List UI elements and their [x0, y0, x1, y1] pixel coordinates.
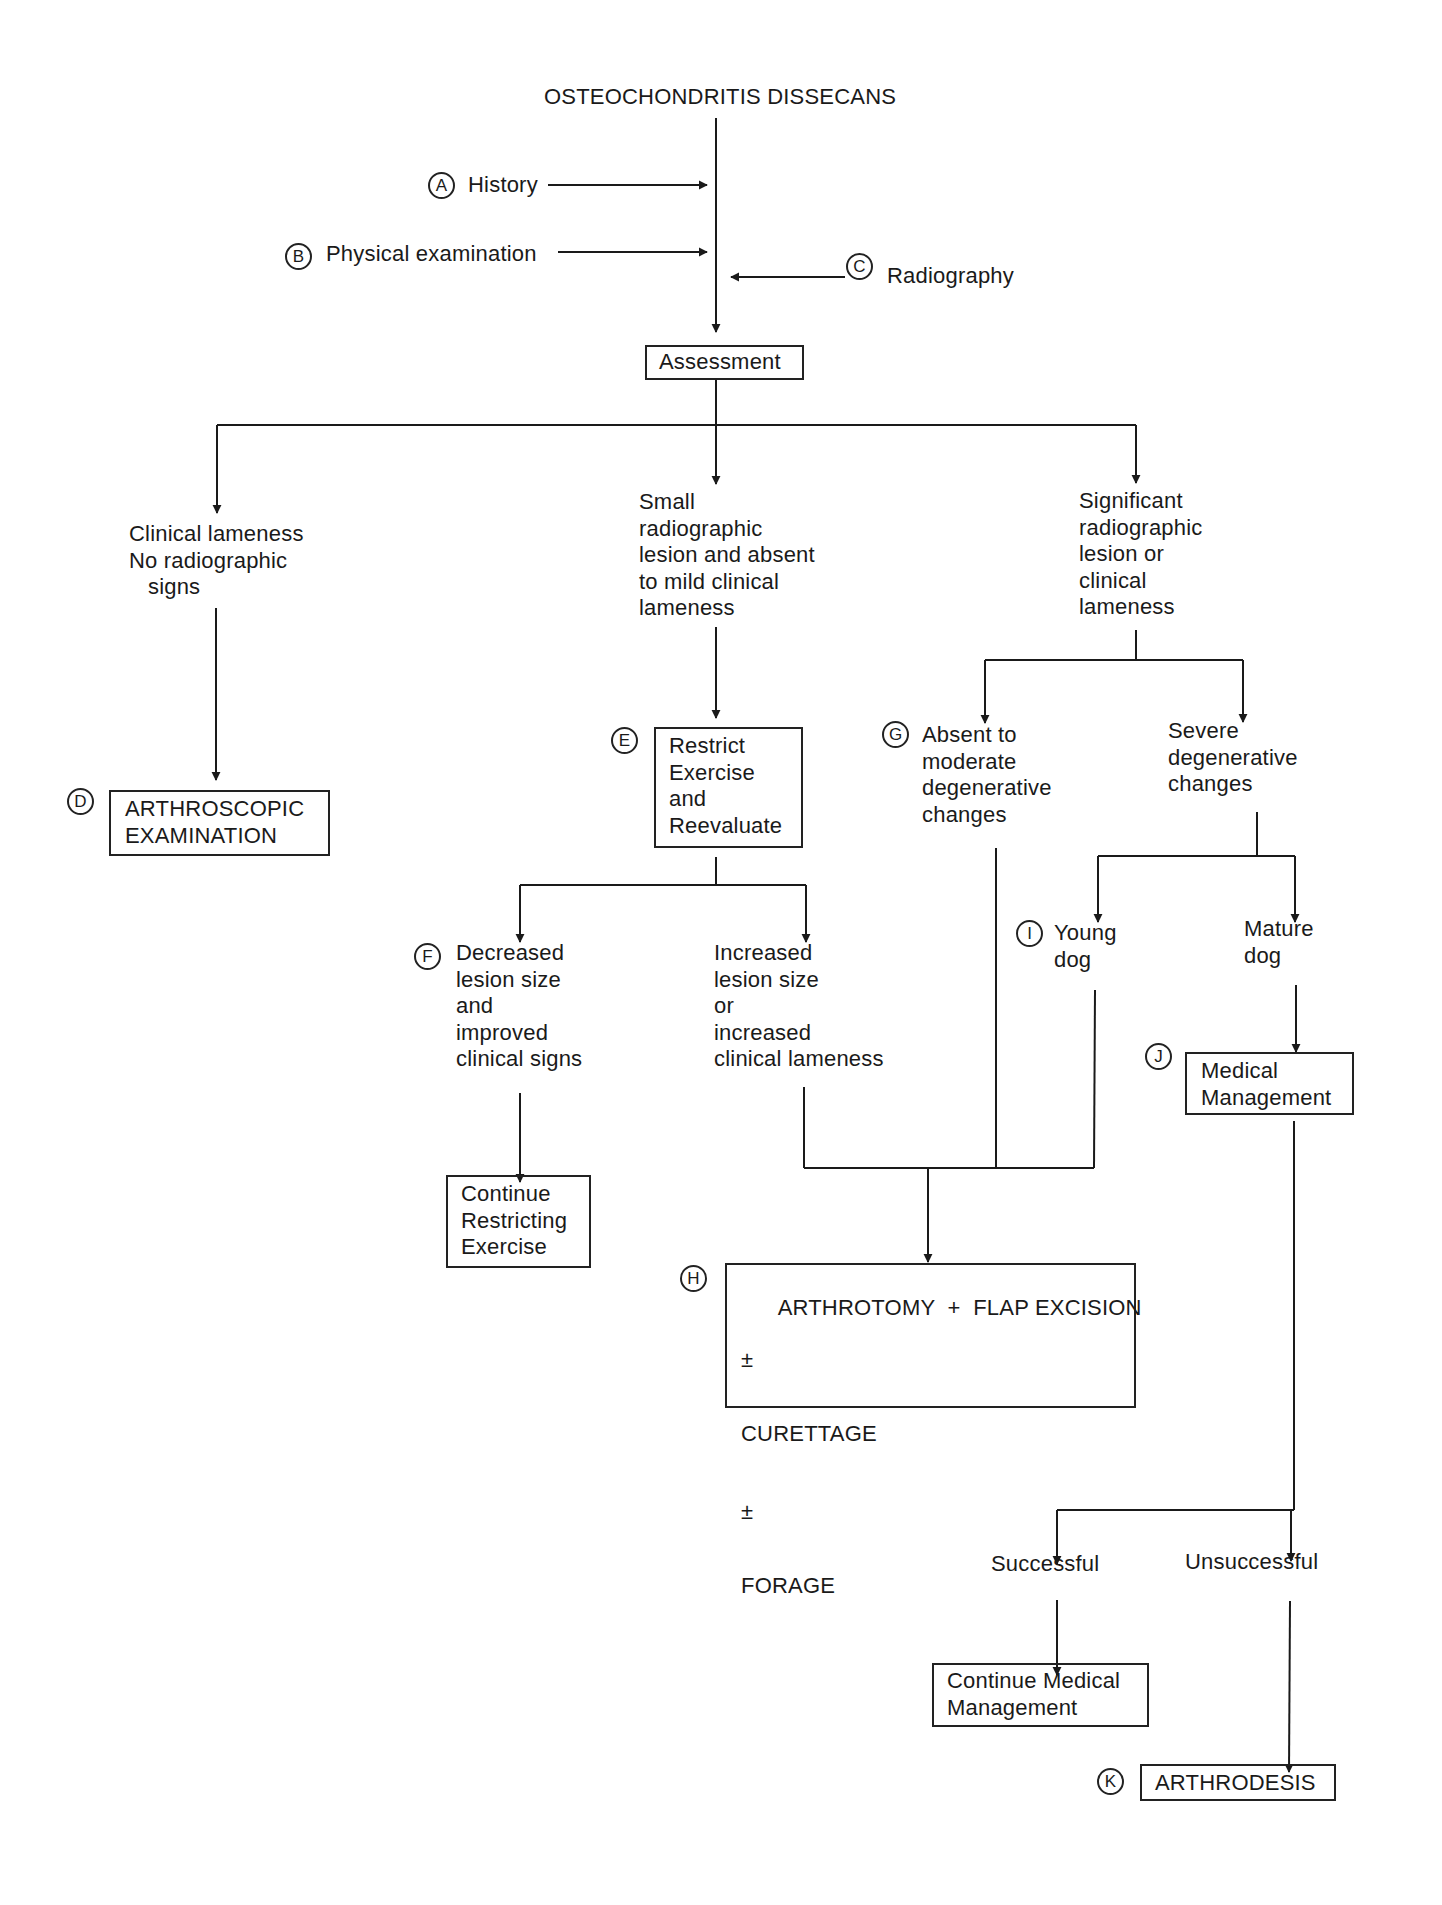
mature-dog: Mature dog — [1244, 916, 1314, 969]
input-physical-examination: Physical examination — [326, 241, 537, 268]
curettage-line: CURETTAGE — [741, 1421, 1142, 1447]
arthrodesis-box: ARTHRODESIS — [1140, 1764, 1336, 1801]
marker-f: F — [414, 943, 441, 970]
input-history: History — [468, 172, 538, 199]
assessment-label: Assessment — [659, 349, 781, 376]
arthrotomy-line: ARTHROTOMY + FLAP EXCISION — [778, 1295, 1142, 1320]
marker-h: H — [680, 1265, 707, 1292]
continue-restricting-box: Continue Restricting Exercise — [446, 1175, 591, 1268]
restrict-exercise-label: Restrict Exercise and Reevaluate — [669, 733, 782, 839]
arthroscopic-examination-label: ARTHROSCOPIC EXAMINATION — [125, 796, 304, 849]
marker-a: A — [428, 172, 455, 199]
arthrotomy-box: ARTHROTOMY + FLAP EXCISION ± CURETTAGE ±… — [725, 1263, 1136, 1408]
marker-k: K — [1097, 1768, 1124, 1795]
marker-d: D — [67, 788, 94, 815]
medical-management-label: Medical Management — [1201, 1058, 1331, 1111]
continue-restricting-label: Continue Restricting Exercise — [461, 1181, 567, 1261]
arthrotomy-content: ARTHROTOMY + FLAP EXCISION ± CURETTAGE ±… — [741, 1269, 1142, 1651]
condition-significant-lesion: Significant radiographic lesion or clini… — [1079, 488, 1202, 621]
young-dog: Young dog — [1054, 920, 1117, 973]
medical-management-box: Medical Management — [1185, 1052, 1354, 1115]
continue-medical-management-label: Continue Medical Management — [947, 1668, 1120, 1721]
restrict-exercise-box: Restrict Exercise and Reevaluate — [654, 727, 803, 848]
condition-small-lesion: Small radiographic lesion and absent to … — [639, 489, 815, 622]
continue-medical-management-box: Continue Medical Management — [932, 1663, 1149, 1727]
arthrodesis-label: ARTHRODESIS — [1155, 1770, 1316, 1797]
assessment-box: Assessment — [645, 345, 804, 380]
outcome-decreased-lesion: Decreased lesion size and improved clini… — [456, 940, 582, 1073]
condition-clinical-lameness: Clinical lameness No radiographic signs — [129, 521, 304, 601]
marker-i: I — [1016, 920, 1043, 947]
input-radiography: Radiography — [887, 263, 1014, 290]
diagram-title: OSTEOCHONDRITIS DISSECANS — [544, 84, 896, 111]
plus-minus-2: ± — [741, 1503, 1142, 1521]
arthroscopic-examination-box: ARTHROSCOPIC EXAMINATION — [109, 790, 330, 856]
marker-g: G — [882, 721, 909, 748]
osteochondritis-flowchart: OSTEOCHONDRITIS DISSECANS A History B Ph… — [0, 0, 1442, 1905]
marker-e: E — [611, 727, 638, 754]
plus-minus-1: ± — [741, 1351, 1142, 1369]
marker-c: C — [846, 253, 873, 280]
outcome-increased-lesion: Increased lesion size or increased clini… — [714, 940, 884, 1073]
marker-j: J — [1145, 1043, 1172, 1070]
outcome-unsuccessful: Unsuccessful — [1185, 1549, 1318, 1576]
marker-b: B — [285, 243, 312, 270]
outcome-successful: Successful — [991, 1551, 1099, 1578]
severe-degenerative-changes: Severe degenerative changes — [1168, 718, 1298, 798]
absent-to-moderate-changes: Absent to moderate degenerative changes — [922, 722, 1052, 828]
